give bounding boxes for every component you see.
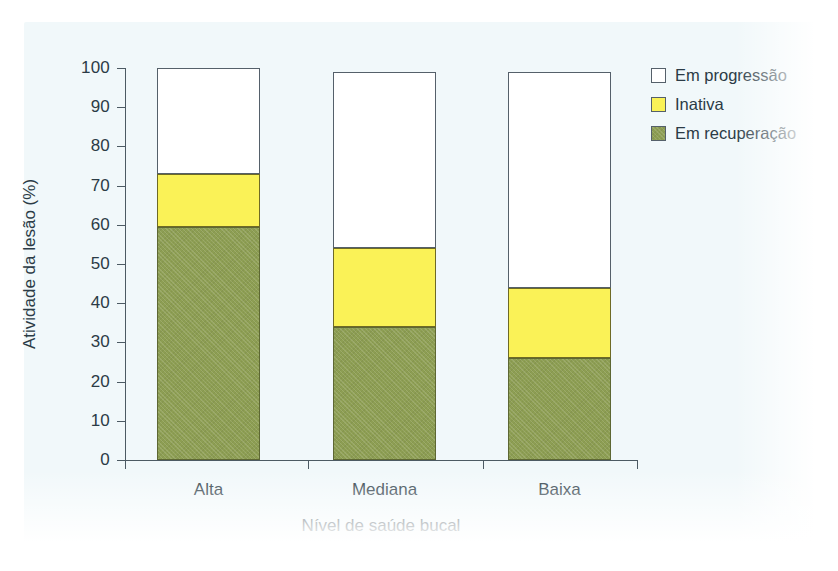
- y-axis-line: [125, 68, 126, 461]
- x-tick: [308, 460, 309, 469]
- legend-swatch-inactive-icon: [651, 97, 666, 112]
- y-tick: 20: [117, 382, 125, 383]
- legend-swatch-progress-icon: [651, 68, 666, 83]
- y-tick: 60: [117, 225, 125, 226]
- y-tick: 90: [117, 107, 125, 108]
- x-axis-line: [125, 460, 637, 461]
- y-tick: 50: [117, 264, 125, 265]
- bar-segment: [333, 72, 436, 248]
- y-tick: 0: [117, 460, 125, 461]
- y-tick-label: 0: [100, 450, 110, 470]
- legend-swatch-recovery-icon: [651, 126, 666, 141]
- scan-fade-bottom: [0, 470, 838, 571]
- legend-item-label: Inativa: [675, 95, 724, 114]
- stacked-bar: [508, 68, 611, 460]
- bar-segment: [508, 358, 611, 460]
- y-tick: 40: [117, 303, 125, 304]
- chart-figure: 0102030405060708090100 AltaMedianaBaixa …: [0, 0, 838, 571]
- x-tick: [125, 460, 126, 469]
- bar-segment: [508, 72, 611, 288]
- bar-segment: [508, 288, 611, 359]
- x-tick: [483, 460, 484, 469]
- y-tick: 70: [117, 186, 125, 187]
- y-tick-label: 80: [91, 136, 110, 156]
- stacked-bar: [157, 68, 260, 460]
- y-tick-label: 60: [91, 215, 110, 235]
- stacked-bar: [333, 68, 436, 460]
- y-tick: 100: [117, 68, 125, 69]
- y-tick-label: 40: [91, 293, 110, 313]
- y-tick: 10: [117, 421, 125, 422]
- y-tick-label: 50: [91, 254, 110, 274]
- y-tick: 80: [117, 146, 125, 147]
- bar-segment: [333, 248, 436, 326]
- x-tick: [637, 460, 638, 469]
- y-tick-label: 20: [91, 372, 110, 392]
- y-tick-label: 90: [91, 97, 110, 117]
- plot-area: 0102030405060708090100 AltaMedianaBaixa …: [125, 68, 637, 460]
- y-tick-label: 70: [91, 176, 110, 196]
- bar-segment: [157, 68, 260, 174]
- bar-segment: [157, 174, 260, 227]
- y-axis-title: Atividade da lesão (%): [20, 179, 40, 349]
- y-tick-label: 100: [81, 58, 110, 78]
- bar-segment: [157, 227, 260, 460]
- y-tick-label: 10: [91, 411, 110, 431]
- y-tick: 30: [117, 342, 125, 343]
- y-tick-label: 30: [91, 332, 110, 352]
- bar-segment: [333, 327, 436, 460]
